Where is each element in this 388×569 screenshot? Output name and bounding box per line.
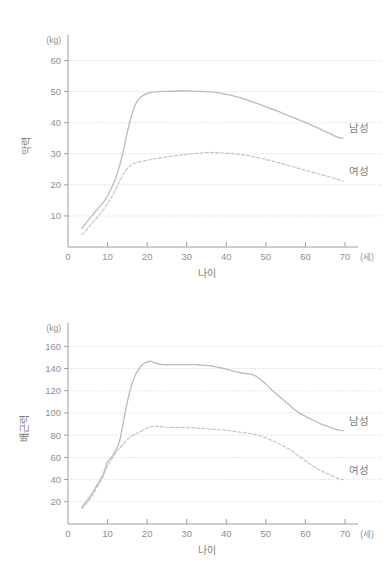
series-label-male: 남성 — [349, 415, 369, 427]
ytick-label-80: 80 — [50, 430, 61, 441]
y-unit-label: (kg) — [46, 323, 61, 333]
xtick-label-0: 0 — [65, 528, 70, 539]
xtick-label-50: 50 — [261, 528, 272, 539]
ytick-label-120: 120 — [45, 385, 61, 396]
xtick-label-30: 30 — [181, 528, 192, 539]
ytick-label-60: 60 — [50, 452, 61, 463]
series-label-female: 여성 — [349, 464, 369, 476]
series-curve-female — [82, 426, 343, 508]
grip-strength-chart: 102030405060(kg)010203040506070(세)나이악력남성… — [0, 0, 388, 285]
xtick-label-40: 40 — [221, 251, 232, 262]
xtick-label-10: 10 — [102, 528, 113, 539]
xtick-label-60: 60 — [300, 528, 311, 539]
xtick-label-20: 20 — [142, 528, 153, 539]
series-label-female: 여성 — [349, 165, 369, 177]
x-axis-title: 나이 — [198, 268, 216, 279]
xtick-label-40: 40 — [221, 528, 232, 539]
ytick-label-20: 20 — [50, 179, 61, 190]
y-axis-title: 배근력 — [19, 415, 30, 442]
ytick-label-100: 100 — [45, 407, 61, 418]
back-strength-chart: 20406080100120140160(kg)010203040506070(… — [0, 285, 388, 569]
xtick-label-0: 0 — [65, 251, 70, 262]
y-unit-label: (kg) — [46, 35, 61, 45]
xtick-label-20: 20 — [142, 251, 153, 262]
ytick-label-40: 40 — [50, 474, 61, 485]
xtick-label-10: 10 — [102, 251, 113, 262]
series-curve-male — [82, 91, 343, 228]
grip-strength-plot: 102030405060(kg)010203040506070(세)나이악력남성… — [0, 0, 388, 285]
ytick-label-160: 160 — [45, 341, 61, 352]
ytick-label-60: 60 — [50, 55, 61, 66]
xtick-label-70: 70 — [340, 251, 351, 262]
series-curve-male — [82, 361, 343, 507]
ytick-label-140: 140 — [45, 363, 61, 374]
ytick-label-20: 20 — [50, 496, 61, 507]
ytick-label-30: 30 — [50, 148, 61, 159]
back-strength-plot: 20406080100120140160(kg)010203040506070(… — [0, 285, 388, 569]
xtick-label-30: 30 — [181, 251, 192, 262]
ytick-label-40: 40 — [50, 117, 61, 128]
y-axis-title: 악력 — [21, 137, 32, 155]
x-unit-label: (세) — [360, 252, 374, 262]
x-axis-title: 나이 — [198, 545, 216, 556]
xtick-label-50: 50 — [261, 251, 272, 262]
ytick-label-50: 50 — [50, 86, 61, 97]
series-curve-female — [82, 152, 343, 234]
xtick-label-70: 70 — [340, 528, 351, 539]
x-unit-label: (세) — [360, 529, 374, 539]
xtick-label-60: 60 — [300, 251, 311, 262]
series-label-male: 남성 — [349, 122, 369, 134]
ytick-label-10: 10 — [50, 210, 61, 221]
